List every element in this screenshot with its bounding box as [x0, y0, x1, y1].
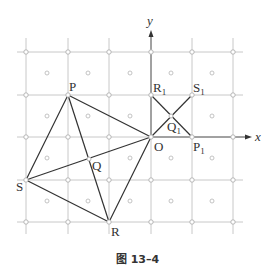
label-P: P	[69, 79, 76, 94]
label-P1: P1	[193, 139, 205, 156]
label-Q1: Q1	[167, 119, 181, 136]
label-Q: Q	[92, 158, 102, 173]
label-O: O	[154, 139, 163, 154]
point-labels: P O R S Q R1 S1 P1 Q1	[16, 79, 205, 239]
label-R: R	[111, 224, 120, 239]
figure-caption: 图 13–4	[0, 250, 275, 266]
y-axis-arrow-icon	[149, 30, 154, 37]
label-S: S	[16, 179, 23, 194]
grid-lines	[17, 38, 243, 234]
x-axis-label: x	[254, 129, 261, 144]
x-axis-arrow-icon	[245, 135, 252, 140]
label-R1: R1	[153, 80, 166, 97]
label-S1: S1	[193, 80, 205, 97]
lattice-diagram: x y P O R S Q R1 S1 P1 Q1	[0, 0, 275, 273]
axes: x y	[145, 13, 261, 144]
y-axis-label: y	[145, 13, 153, 28]
